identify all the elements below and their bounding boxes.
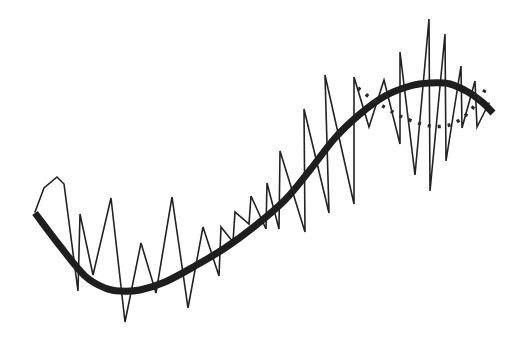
signal-chart bbox=[0, 0, 524, 344]
